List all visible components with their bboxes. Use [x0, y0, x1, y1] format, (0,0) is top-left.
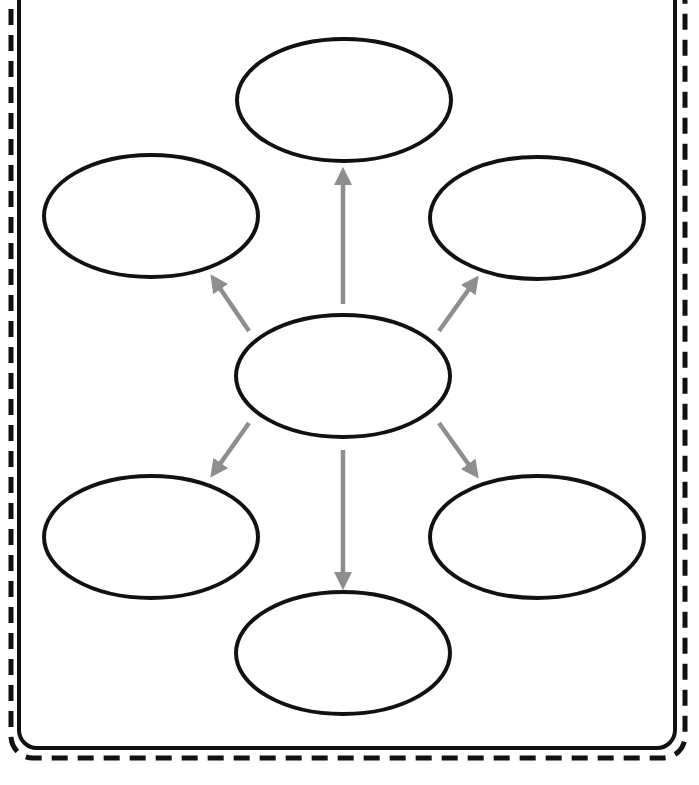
outer-bubble-bottom — [236, 592, 450, 714]
outer-bubble-upper-right — [430, 157, 644, 279]
outer-bubble-lower-left — [44, 476, 258, 598]
outer-bubble-upper-left — [44, 155, 258, 277]
outer-bubble-top — [237, 39, 451, 161]
diagram-canvas — [0, 0, 699, 785]
center-bubble — [236, 315, 450, 437]
outer-bubble-lower-right — [430, 476, 644, 598]
bubble-map-diagram — [0, 0, 699, 785]
